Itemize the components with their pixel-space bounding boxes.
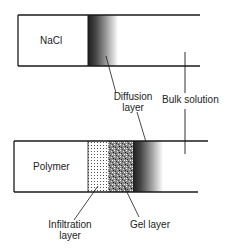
gel-layer-label: Gel layer — [130, 219, 170, 230]
bottom-panel — [14, 141, 208, 220]
infiltration-label-line2: layer — [44, 230, 96, 241]
infiltration-layer-label: Infiltration layer — [44, 219, 96, 241]
bulk-solution-label: Bulk solution — [161, 94, 220, 105]
diffusion-layer-gradient-bottom — [133, 141, 163, 192]
diffusion-layer-gradient — [88, 15, 118, 66]
infiltration-layer — [88, 141, 108, 192]
diffusion-layer-label: Diffusion layer — [110, 91, 156, 113]
gel-layer — [108, 141, 133, 192]
infiltration-leader-line — [74, 186, 98, 220]
polymer-label: Polymer — [33, 161, 70, 172]
diffusion-label-line1: Diffusion — [110, 91, 156, 102]
infiltration-label-line1: Infiltration — [44, 219, 96, 230]
diffusion-label-line2: layer — [110, 102, 156, 113]
top-panel — [18, 15, 200, 93]
dissolution-diagram — [0, 0, 229, 250]
nacl-label: NaCl — [40, 35, 62, 46]
